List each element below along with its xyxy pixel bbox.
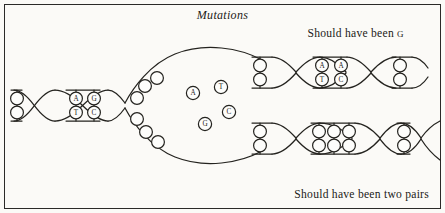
figure-panel: A T G C <box>0 0 445 213</box>
base-label: A <box>319 62 325 70</box>
base-label: G <box>91 95 96 103</box>
daughter-strand-top: A T A C <box>252 57 428 88</box>
base-label: T <box>320 76 325 84</box>
base-label: A <box>73 95 79 103</box>
base-label: C <box>92 109 97 117</box>
base-bead-blank <box>254 73 267 86</box>
base-bead-blank <box>398 125 411 138</box>
replication-bubble: A T C G <box>125 47 262 163</box>
base-bead-blank <box>11 106 24 119</box>
free-nucleotide-C: C <box>222 105 235 118</box>
annotation-top-right-base: g <box>397 29 404 39</box>
unpaired-base-bead <box>152 136 165 149</box>
annotation-top-right: Should have been g <box>308 27 405 40</box>
annotation-bottom-right: Should have been two pairs <box>294 188 429 201</box>
unpaired-base-bead <box>131 92 144 105</box>
annotation-top-right-text: Should have been <box>308 27 394 40</box>
base-label: A <box>190 89 196 97</box>
unpaired-base-bead <box>140 126 153 139</box>
base-bead-blank <box>394 59 407 72</box>
base-label: C <box>339 76 344 84</box>
base-bead-blank <box>11 92 24 105</box>
base-label: T <box>219 83 224 91</box>
base-bead-blank <box>313 125 326 138</box>
base-bead-blank <box>343 139 356 152</box>
daughter-strand-bottom <box>252 121 440 160</box>
base-label: T <box>74 109 79 117</box>
base-bead-blank <box>394 73 407 86</box>
base-bead-blank <box>254 125 267 138</box>
base-bead-blank <box>254 139 267 152</box>
unpaired-base-bead <box>131 113 144 126</box>
base-bead-blank <box>313 139 326 152</box>
base-label: C <box>227 108 232 116</box>
unpaired-base-bead <box>139 80 152 93</box>
parent-helix: A T G C <box>11 90 125 121</box>
base-bead-blank <box>398 139 411 152</box>
free-nucleotide-A: A <box>186 86 199 99</box>
base-bead-blank <box>328 125 341 138</box>
base-bead-blank <box>328 139 341 152</box>
base-bead-blank <box>254 59 267 72</box>
unpaired-base-bead <box>151 72 164 85</box>
base-bead-blank <box>343 125 356 138</box>
free-nucleotide-G: G <box>198 117 211 130</box>
base-label: G <box>202 120 207 128</box>
free-nucleotide-T: T <box>214 80 227 93</box>
figure-title: Mutations <box>0 8 445 23</box>
base-label: A <box>338 62 344 70</box>
